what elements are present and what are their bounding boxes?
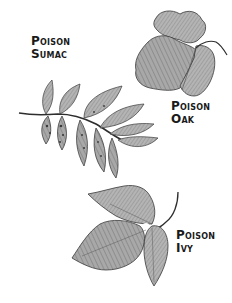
ivy-stem-junction — [143, 223, 149, 227]
label-poison-oak-line2: Oak — [171, 113, 210, 126]
label-poison-oak: Poison Oak — [171, 100, 210, 126]
poison-sumac-leaf — [19, 80, 158, 178]
label-poison-ivy-line2: Ivy — [176, 242, 215, 255]
label-poison-sumac-line2: Sumac — [31, 48, 70, 61]
poison-oak-leaf — [136, 11, 228, 96]
illustration-canvas: Poison Sumac Poison Oak Poison Ivy — [0, 0, 232, 303]
poison-ivy-leaf — [72, 185, 178, 286]
label-poison-ivy: Poison Ivy — [176, 229, 215, 255]
label-poison-sumac: Poison Sumac — [31, 35, 70, 61]
